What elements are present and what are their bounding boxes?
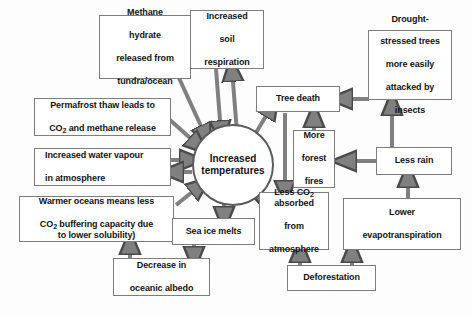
node-label-water-vapour: Increased water vapour in atmosphere bbox=[35, 150, 147, 184]
node-label-less-rain: Less rain bbox=[393, 155, 436, 166]
node-label-oceanic-albedo: Decrease in oceanic albedo bbox=[126, 260, 198, 294]
node-label-drought-stressed-trees: Drought- stressed trees more easily atta… bbox=[376, 14, 444, 117]
edge-permafrost-to-hub bbox=[170, 120, 199, 146]
node-drought-stressed-trees[interactable]: Drought- stressed trees more easily atta… bbox=[368, 30, 452, 100]
node-water-vapour[interactable]: Increased water vapour in atmosphere bbox=[34, 148, 171, 186]
node-methane-hydrate[interactable]: Methane hydrate released from tundra/oce… bbox=[99, 15, 191, 79]
node-oceanic-albedo[interactable]: Decrease in oceanic albedo bbox=[113, 258, 210, 296]
node-label-deforestation: Deforestation bbox=[301, 272, 362, 283]
node-forest-fires[interactable]: More forest fires bbox=[293, 130, 335, 188]
node-soil-respiration[interactable]: Increased soil respiration bbox=[190, 10, 264, 69]
hub-label-line1: Increased bbox=[210, 153, 257, 164]
node-label-methane-hydrate: Methane hydrate released from tundra/oce… bbox=[112, 7, 178, 87]
node-sea-ice-melts[interactable]: Sea ice melts bbox=[172, 218, 255, 245]
node-less-rain[interactable]: Less rain bbox=[376, 147, 452, 175]
node-label-warmer-oceans: Warmer oceans means less CO2 buffering c… bbox=[35, 196, 158, 242]
node-less-co2-absorbed[interactable]: Less CO2 absorbed from atmosphere bbox=[259, 192, 329, 250]
node-label-less-co2-absorbed: Less CO2 absorbed from atmosphere bbox=[265, 187, 323, 255]
node-label-lower-evapotranspiration: Lower evapotranspiration bbox=[358, 207, 445, 241]
edge-warmeroceans-to-hub bbox=[176, 185, 201, 205]
node-label-forest-fires: More forest fires bbox=[298, 130, 330, 187]
edge-soilresp-to-hub bbox=[216, 69, 221, 133]
node-label-sea-ice-melts: Sea ice melts bbox=[184, 226, 244, 237]
node-label-permafrost-thaw: Permafrost thaw leads to CO2 and methane… bbox=[46, 100, 159, 134]
node-deforestation[interactable]: Deforestation bbox=[287, 265, 376, 291]
node-lower-evapotranspiration[interactable]: Lower evapotranspiration bbox=[343, 198, 461, 250]
node-tree-death[interactable]: Tree death bbox=[256, 86, 340, 112]
hub-label-line2: temperatures bbox=[201, 165, 264, 176]
node-warmer-oceans[interactable]: Warmer oceans means less CO2 buffering c… bbox=[19, 196, 174, 242]
node-permafrost-thaw[interactable]: Permafrost thaw leads to CO2 and methane… bbox=[34, 98, 171, 136]
node-label-soil-respiration: Increased soil respiration bbox=[200, 11, 253, 68]
edge-methane-to-hub bbox=[179, 78, 206, 137]
node-label-tree-death: Tree death bbox=[274, 93, 322, 104]
diagram-canvas: Increased temperatures Methane hydrate r… bbox=[0, 0, 472, 314]
